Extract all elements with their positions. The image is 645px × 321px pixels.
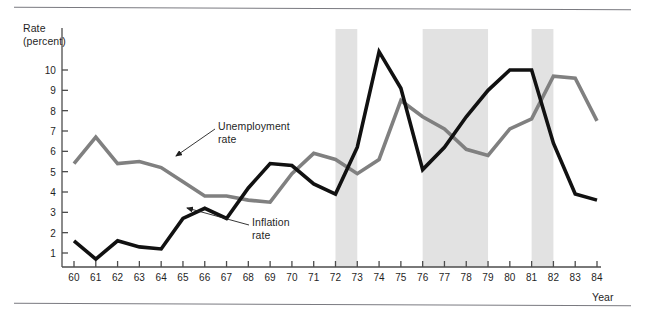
axes-group bbox=[62, 28, 601, 267]
x-tick-label: 77 bbox=[439, 272, 450, 283]
y-tick-label: 5 bbox=[30, 166, 56, 177]
leader-line-unemployment bbox=[176, 129, 215, 156]
x-tick-label: 60 bbox=[68, 272, 79, 283]
x-tick-label: 72 bbox=[330, 272, 341, 283]
x-tick-label: 61 bbox=[90, 272, 101, 283]
x-tick-label: 69 bbox=[264, 272, 275, 283]
x-tick-label: 80 bbox=[504, 272, 515, 283]
x-tick-label: 79 bbox=[482, 272, 493, 283]
y-tick-label: 6 bbox=[30, 146, 56, 157]
y-tick-label: 9 bbox=[30, 85, 56, 96]
shaded-region-recession-1970 bbox=[336, 29, 358, 267]
axis-ticks-group bbox=[62, 70, 597, 267]
leader-line-inflation bbox=[187, 208, 249, 225]
x-tick-label: 66 bbox=[199, 272, 210, 283]
y-tick-label: 8 bbox=[30, 105, 56, 116]
x-tick-label: 78 bbox=[461, 272, 472, 283]
x-tick-label: 82 bbox=[548, 272, 559, 283]
x-tick-label: 64 bbox=[155, 272, 166, 283]
y-tick-label: 1 bbox=[30, 248, 56, 259]
x-tick-label: 67 bbox=[221, 272, 232, 283]
x-tick-label: 83 bbox=[570, 272, 581, 283]
shaded-region-recession-1980 bbox=[532, 29, 554, 267]
x-tick-label: 75 bbox=[395, 272, 406, 283]
x-tick-label: 65 bbox=[177, 272, 188, 283]
y-tick-label: 3 bbox=[30, 207, 56, 218]
x-tick-label: 71 bbox=[308, 272, 319, 283]
x-tick-label: 84 bbox=[591, 272, 602, 283]
x-tick-label: 76 bbox=[417, 272, 428, 283]
shaded-region-recession-1974 bbox=[423, 29, 488, 267]
x-tick-label: 63 bbox=[134, 272, 145, 283]
x-tick-label: 81 bbox=[526, 272, 537, 283]
x-tick-label: 62 bbox=[112, 272, 123, 283]
x-tick-label: 74 bbox=[373, 272, 384, 283]
x-tick-label: 70 bbox=[286, 272, 297, 283]
figure-container: Rate (percent) Year Unemployment rate In… bbox=[0, 0, 645, 321]
y-tick-label: 10 bbox=[30, 65, 56, 76]
y-tick-label: 4 bbox=[30, 187, 56, 198]
y-tick-label: 7 bbox=[30, 126, 56, 137]
x-tick-label: 73 bbox=[352, 272, 363, 283]
y-tick-label: 2 bbox=[30, 227, 56, 238]
x-tick-label: 68 bbox=[243, 272, 254, 283]
